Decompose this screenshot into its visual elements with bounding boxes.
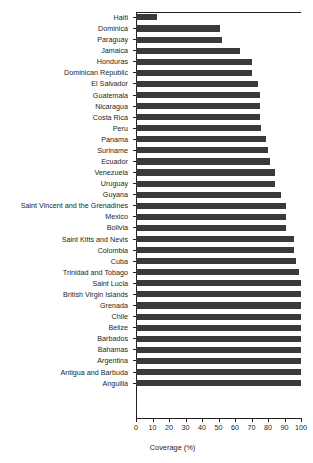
category-label: Anguilla xyxy=(0,378,132,389)
x-tick-label: 100 xyxy=(295,423,307,432)
category-label: El Salvador xyxy=(0,78,132,89)
x-axis-ticks: 0102030405060708090100 xyxy=(136,419,301,435)
category-label: Belize xyxy=(0,322,132,333)
category-label: Haiti xyxy=(0,12,132,23)
bar-row xyxy=(136,200,301,211)
bar-row xyxy=(136,322,301,333)
bar xyxy=(136,358,301,364)
category-label: Cuba xyxy=(0,256,132,267)
x-tick-mark xyxy=(136,419,137,422)
x-tick-label: 10 xyxy=(149,423,157,432)
bar xyxy=(136,169,275,175)
category-label: Dominican Republic xyxy=(0,67,132,78)
x-tick-label: 0 xyxy=(134,423,138,432)
bar-row xyxy=(136,367,301,378)
bar-row xyxy=(136,333,301,344)
bar xyxy=(136,48,240,54)
category-label: Argentina xyxy=(0,355,132,366)
bar xyxy=(136,380,301,386)
category-label: Nicaragua xyxy=(0,101,132,112)
bar xyxy=(136,14,157,20)
category-label: Mexico xyxy=(0,211,132,222)
x-tick-mark xyxy=(153,419,154,422)
category-label: Honduras xyxy=(0,56,132,67)
bar xyxy=(136,280,301,286)
x-tick-label: 20 xyxy=(165,423,173,432)
x-tick-mark xyxy=(285,419,286,422)
bar xyxy=(136,225,286,231)
bar-row xyxy=(136,45,301,56)
coverage-bar-chart: HaitiDominicaParaguayJamaicaHondurasDomi… xyxy=(0,0,313,463)
bar-row xyxy=(136,112,301,123)
bar-row xyxy=(136,378,301,389)
x-axis-title-text: Coverage (%) xyxy=(150,443,196,452)
x-tick-label: 70 xyxy=(248,423,256,432)
bar xyxy=(136,103,260,109)
category-label: Guatemala xyxy=(0,90,132,101)
bar-rows xyxy=(136,12,301,418)
x-tick-label: 30 xyxy=(182,423,190,432)
bar xyxy=(136,258,296,264)
x-tick-mark xyxy=(268,419,269,422)
x-tick-mark xyxy=(235,419,236,422)
bar xyxy=(136,269,299,275)
bar xyxy=(136,247,294,253)
category-label: Barbados xyxy=(0,333,132,344)
bar xyxy=(136,369,301,375)
category-label: Paraguay xyxy=(0,34,132,45)
category-label: Trinidad and Tobago xyxy=(0,267,132,278)
bar xyxy=(136,314,301,320)
bar xyxy=(136,302,301,308)
x-tick-label: 40 xyxy=(198,423,206,432)
category-label: Chile xyxy=(0,311,132,322)
category-label: Peru xyxy=(0,123,132,134)
bar-row xyxy=(136,222,301,233)
bar-row xyxy=(136,12,301,23)
bar xyxy=(136,81,258,87)
x-tick-mark xyxy=(252,419,253,422)
bar xyxy=(136,25,220,31)
category-label: Grenada xyxy=(0,300,132,311)
category-label: Costa Rica xyxy=(0,112,132,123)
category-label: Saint Lucia xyxy=(0,278,132,289)
x-tick-mark xyxy=(301,419,302,422)
bar xyxy=(136,37,222,43)
bar xyxy=(136,214,286,220)
category-label: Venezuela xyxy=(0,167,132,178)
bar xyxy=(136,70,252,76)
bar xyxy=(136,236,294,242)
bar xyxy=(136,125,261,131)
bar-row xyxy=(136,211,301,222)
x-tick-mark xyxy=(186,419,187,422)
x-tick-mark xyxy=(202,419,203,422)
bar xyxy=(136,325,301,331)
bar-row xyxy=(136,78,301,89)
category-label: Antigua and Barbuda xyxy=(0,367,132,378)
bar-row xyxy=(136,90,301,101)
category-label: Saint Kitts and Nevis xyxy=(0,234,132,245)
bar-row xyxy=(136,101,301,112)
x-tick-label: 50 xyxy=(215,423,223,432)
bar xyxy=(136,59,252,65)
bar-row xyxy=(136,344,301,355)
bar xyxy=(136,92,260,98)
bar xyxy=(136,203,286,209)
bar-row xyxy=(136,355,301,366)
category-label: Colombia xyxy=(0,245,132,256)
bar-row xyxy=(136,134,301,145)
bar-row xyxy=(136,156,301,167)
bar-row xyxy=(136,34,301,45)
bar-row xyxy=(136,256,301,267)
category-label: Panama xyxy=(0,134,132,145)
category-label: Uruguay xyxy=(0,178,132,189)
category-label: Jamaica xyxy=(0,45,132,56)
bar xyxy=(136,158,270,164)
bar-row xyxy=(136,278,301,289)
x-tick-label: 60 xyxy=(231,423,239,432)
bar-row xyxy=(136,189,301,200)
bar-row xyxy=(136,311,301,322)
bar-row xyxy=(136,123,301,134)
category-label: Saint Vincent and the Grenadines xyxy=(0,200,132,211)
category-label: Ecuador xyxy=(0,156,132,167)
bar xyxy=(136,192,281,198)
